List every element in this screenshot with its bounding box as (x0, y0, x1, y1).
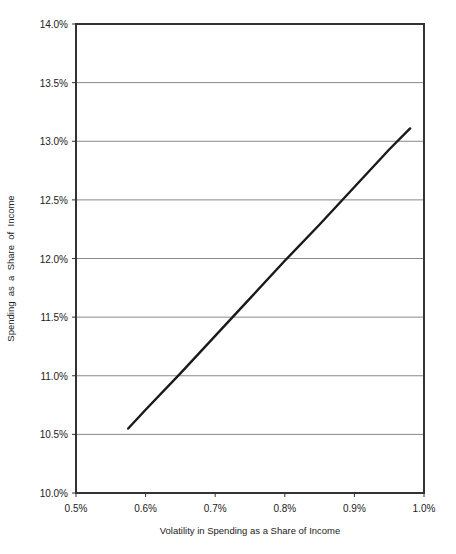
x-tick-label: 0.8% (273, 503, 296, 514)
x-axis-title: Volatility in Spending as a Share of Inc… (160, 525, 341, 536)
y-axis-ticks: 10.0%10.5%11.0%11.5%12.0%12.5%13.0%13.5%… (40, 19, 76, 499)
x-tick-label: 1.0% (413, 503, 436, 514)
line-chart: 10.0%10.5%11.0%11.5%12.0%12.5%13.0%13.5%… (0, 0, 456, 554)
x-tick-label: 0.6% (134, 503, 157, 514)
y-tick-label: 11.5% (40, 312, 68, 323)
y-tick-label: 14.0% (40, 19, 68, 30)
y-tick-label: 12.5% (40, 195, 68, 206)
x-axis-ticks: 0.5%0.6%0.7%0.8%0.9%1.0% (65, 493, 436, 514)
y-tick-label: 10.5% (40, 429, 68, 440)
y-tick-label: 11.0% (40, 371, 68, 382)
y-tick-label: 10.0% (40, 488, 68, 499)
x-tick-label: 0.5% (65, 503, 88, 514)
x-tick-label: 0.9% (343, 503, 366, 514)
y-tick-label: 13.0% (40, 136, 68, 147)
y-tick-label: 12.0% (40, 254, 68, 265)
x-tick-label: 0.7% (204, 503, 227, 514)
y-axis-title: Spending as a Share of Income (5, 195, 16, 341)
gridlines (76, 83, 424, 435)
data-line (128, 128, 410, 428)
y-tick-label: 13.5% (40, 78, 68, 89)
